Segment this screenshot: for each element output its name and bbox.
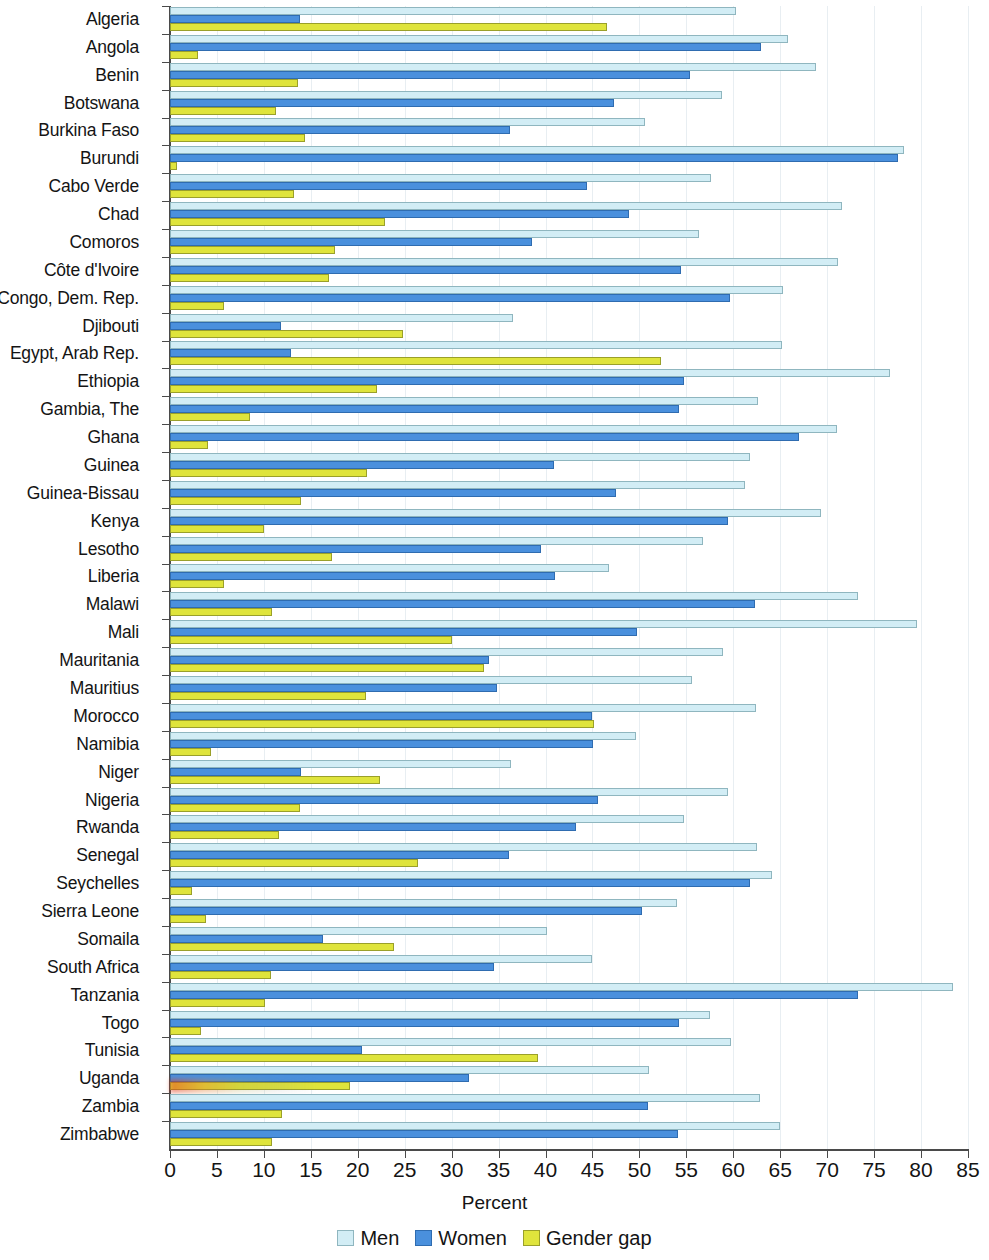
bar-men[interactable] [170, 369, 890, 377]
bar-gap[interactable] [170, 1054, 538, 1062]
bar-women[interactable] [170, 545, 541, 553]
bar-men[interactable] [170, 453, 750, 461]
bar-gap[interactable] [170, 107, 276, 115]
bar-women[interactable] [170, 1074, 469, 1082]
bar-men[interactable] [170, 425, 837, 433]
bar-women[interactable] [170, 963, 494, 971]
bar-women[interactable] [170, 656, 489, 664]
bar-women[interactable] [170, 433, 799, 441]
bar-women[interactable] [170, 712, 592, 720]
bar-women[interactable] [170, 628, 637, 636]
bar-men[interactable] [170, 1066, 649, 1074]
bar-gap[interactable] [170, 441, 208, 449]
bar-women[interactable] [170, 684, 497, 692]
bar-men[interactable] [170, 7, 736, 15]
bar-women[interactable] [170, 907, 642, 915]
bar-women[interactable] [170, 740, 593, 748]
bar-gap[interactable] [170, 943, 394, 951]
bar-women[interactable] [170, 266, 681, 274]
bar-gap[interactable] [170, 553, 332, 561]
bar-men[interactable] [170, 927, 547, 935]
bar-gap[interactable] [170, 1138, 272, 1146]
bar-men[interactable] [170, 955, 592, 963]
bar-gap[interactable] [170, 664, 484, 672]
bar-gap[interactable] [170, 51, 198, 59]
bar-women[interactable] [170, 991, 858, 999]
bar-men[interactable] [170, 91, 722, 99]
bar-men[interactable] [170, 815, 684, 823]
bar-gap[interactable] [170, 887, 192, 895]
bar-men[interactable] [170, 843, 757, 851]
bar-men[interactable] [170, 871, 772, 879]
bar-women[interactable] [170, 461, 554, 469]
bar-men[interactable] [170, 146, 904, 154]
bar-women[interactable] [170, 210, 629, 218]
bar-gap[interactable] [170, 79, 298, 87]
bar-men[interactable] [170, 760, 511, 768]
bar-men[interactable] [170, 174, 711, 182]
bar-gap[interactable] [170, 357, 661, 365]
bar-men[interactable] [170, 788, 728, 796]
bar-men[interactable] [170, 983, 953, 991]
bar-gap[interactable] [170, 776, 380, 784]
bar-gap[interactable] [170, 190, 294, 198]
bar-men[interactable] [170, 1038, 731, 1046]
bar-gap[interactable] [170, 915, 206, 923]
bar-gap[interactable] [170, 636, 452, 644]
bar-women[interactable] [170, 154, 898, 162]
bar-women[interactable] [170, 71, 690, 79]
bar-women[interactable] [170, 489, 616, 497]
bar-gap[interactable] [170, 608, 272, 616]
bar-men[interactable] [170, 648, 723, 656]
bar-women[interactable] [170, 823, 576, 831]
bar-men[interactable] [170, 230, 699, 238]
bar-men[interactable] [170, 509, 821, 517]
bar-women[interactable] [170, 879, 750, 887]
bar-women[interactable] [170, 349, 291, 357]
bar-gap[interactable] [170, 748, 211, 756]
bar-gap[interactable] [170, 134, 305, 142]
bar-women[interactable] [170, 99, 614, 107]
bar-women[interactable] [170, 600, 755, 608]
bar-women[interactable] [170, 1019, 679, 1027]
bar-gap[interactable] [170, 971, 271, 979]
bar-women[interactable] [170, 126, 510, 134]
bar-gap[interactable] [170, 525, 264, 533]
bar-men[interactable] [170, 676, 692, 684]
bar-gap[interactable] [170, 1027, 201, 1035]
bar-women[interactable] [170, 43, 761, 51]
bar-men[interactable] [170, 564, 609, 572]
bar-women[interactable] [170, 517, 728, 525]
bar-women[interactable] [170, 1130, 678, 1138]
legend-item-gender-gap[interactable]: Gender gap [523, 1228, 652, 1248]
bar-women[interactable] [170, 377, 684, 385]
bar-men[interactable] [170, 1094, 760, 1102]
bar-gap[interactable] [170, 804, 300, 812]
bar-women[interactable] [170, 572, 555, 580]
bar-gap[interactable] [170, 385, 377, 393]
bar-men[interactable] [170, 592, 858, 600]
bar-gap[interactable] [170, 413, 250, 421]
bar-men[interactable] [170, 118, 645, 126]
bar-men[interactable] [170, 1122, 780, 1130]
bar-gap[interactable] [170, 999, 265, 1007]
bar-gap[interactable] [170, 692, 366, 700]
bar-men[interactable] [170, 537, 703, 545]
bar-gap[interactable] [170, 1082, 350, 1090]
bar-men[interactable] [170, 704, 756, 712]
bar-gap[interactable] [170, 330, 403, 338]
legend-item-women[interactable]: Women [415, 1228, 507, 1248]
bar-gap[interactable] [170, 274, 329, 282]
bar-women[interactable] [170, 182, 587, 190]
bar-gap[interactable] [170, 218, 385, 226]
bar-men[interactable] [170, 481, 745, 489]
bar-men[interactable] [170, 258, 838, 266]
bar-women[interactable] [170, 796, 598, 804]
bar-women[interactable] [170, 322, 281, 330]
bar-women[interactable] [170, 1046, 362, 1054]
bar-gap[interactable] [170, 497, 301, 505]
bar-women[interactable] [170, 15, 300, 23]
bar-men[interactable] [170, 202, 842, 210]
bar-women[interactable] [170, 1102, 648, 1110]
bar-gap[interactable] [170, 1110, 282, 1118]
